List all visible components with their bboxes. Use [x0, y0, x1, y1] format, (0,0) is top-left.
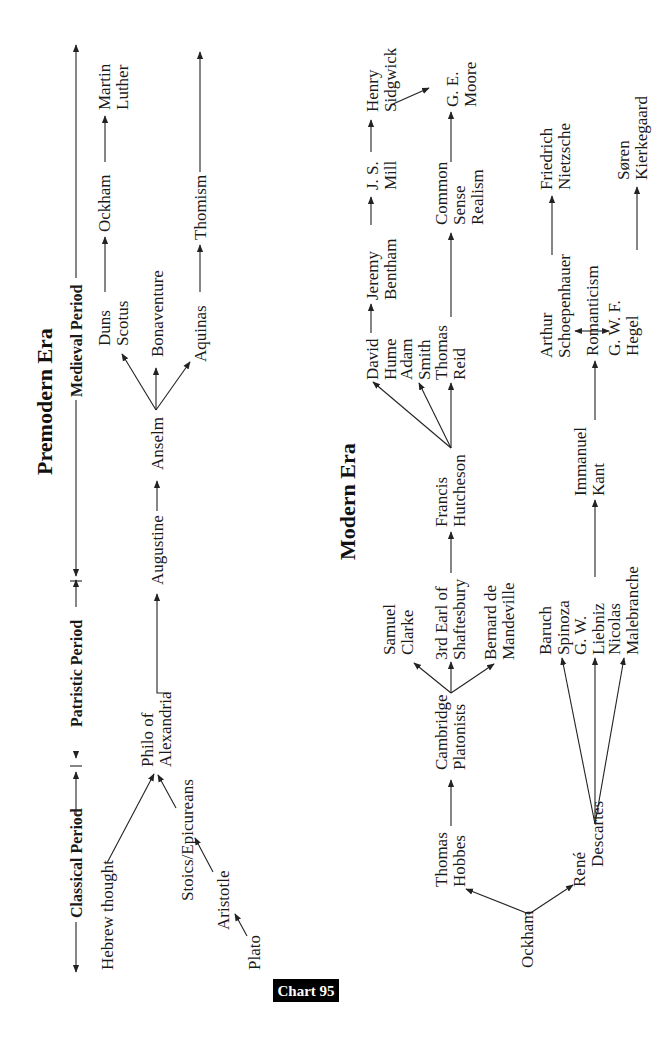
node-baruch-spinoza: Baruch Spinoza	[536, 600, 573, 655]
patristic-period-label: Patristic Period	[68, 620, 85, 727]
edge-aristotle-stoics	[195, 838, 213, 872]
node-aquinas: Aquinas	[191, 305, 210, 362]
node-duns-scotus: Duns Scotus	[95, 301, 132, 346]
node-cambridge-platonists: Cambridge Platonists	[432, 690, 469, 770]
node-plato: Plato	[245, 935, 264, 970]
node-martin-luther: Martin Luther	[95, 59, 132, 110]
edge-plato-aristotle	[235, 914, 247, 936]
node-ockham-modern: Ockham	[518, 910, 537, 968]
node-soren-kierkegaard: Søren Kierkegaard	[614, 95, 651, 180]
node-david-hume: David Hume	[363, 334, 400, 380]
node-common-sense-realism: Common Sense Realism	[432, 157, 487, 225]
modern-era: Modern Era Ockham Thomas Hobbes René Des…	[335, 47, 651, 968]
node-ge-moore: G. E. Moore	[443, 62, 480, 107]
node-hebrew-thought: Hebrew thought	[98, 860, 117, 970]
period-timeline: Classical Period Patristic Period Mediev…	[68, 45, 85, 972]
node-ockham: Ockham	[95, 174, 114, 232]
node-aristotle: Aristotle	[214, 871, 233, 931]
chart-number-text: Chart 95	[277, 983, 334, 999]
node-friedrich-nietzsche: Friedrich Nietzsche	[537, 123, 574, 190]
edge-hebrew-philo	[107, 774, 154, 863]
modern-era-title: Modern Era	[335, 443, 360, 560]
node-samuel-clarke: Samuel Clarke	[380, 600, 417, 655]
node-shaftesbury: 3rd Earl of Shaftesbury	[432, 578, 469, 660]
node-bonaventure: Bonaventure	[148, 270, 167, 357]
node-romanticism: Romanticism	[583, 265, 602, 356]
edge-ockham-hobbes	[466, 889, 529, 914]
edge-anselm-aquinas	[156, 362, 190, 410]
edge-cambridge-mandeville	[451, 664, 494, 693]
node-augustine: Augustine	[148, 515, 167, 585]
node-js-mill: J. S. Mill	[363, 157, 400, 190]
node-thomas-reid: Thomas Reid	[432, 321, 469, 380]
edge-anselm-duns-scotus	[122, 354, 156, 410]
edge-descartes-malebranche	[595, 658, 624, 824]
edge-stoics-philo	[158, 775, 176, 808]
chart-number-badge: Chart 95	[273, 979, 339, 1002]
node-thomas-hobbes: Thomas Hobbes	[432, 828, 469, 887]
premodern-era: Premodern Era Classical Period Patristic…	[32, 45, 264, 972]
edge-ockham-descartes	[529, 885, 573, 914]
edge-cambridge-clarke	[414, 663, 451, 693]
node-anselm: Anselm	[148, 417, 167, 470]
node-philo-of-alexandria: Philo of Alexandria	[138, 691, 175, 767]
edge-hutcheson-smith	[419, 383, 451, 448]
node-gwf-hegel: G. W. F. Hegel	[605, 296, 642, 356]
node-immanuel-kant: Immanuel Kant	[571, 423, 608, 496]
node-arthur-schoepenhauer: Arthur Schoepenhauer	[537, 254, 574, 358]
node-gw-liebniz: G. W. Liebniz	[571, 603, 608, 655]
edge-descartes-spinoza	[562, 658, 595, 824]
node-stoics-epicureans: Stoics/Epicureans	[178, 779, 197, 901]
node-henry-sidgwick: Henry Sidgwick	[363, 47, 400, 112]
premodern-era-title: Premodern Era	[32, 328, 57, 475]
node-rene-descartes: René Descartes	[570, 801, 607, 887]
node-bernard-de-mandeville: Bernard de Mandeville	[481, 581, 518, 660]
edge-philo-augustine	[157, 594, 169, 693]
node-jeremy-bentham: Jeremy Bentham	[363, 239, 400, 300]
node-thomism: Thomism	[191, 175, 210, 240]
premodern-edges	[105, 52, 247, 936]
node-francis-hutcheson: Francis Hutcheson	[432, 454, 469, 527]
node-nicolas-malebranche: Nicolas Malebranche	[605, 566, 642, 655]
modern-edges	[371, 88, 637, 914]
node-adam-smith: Adam Smith	[397, 334, 434, 380]
philosophy-lineage-diagram: Premodern Era Classical Period Patristic…	[0, 0, 657, 1041]
classical-period-label: Classical Period	[68, 808, 85, 918]
medieval-period-label: Medieval Period	[68, 284, 85, 397]
edge-hutcheson-hume	[373, 382, 451, 448]
